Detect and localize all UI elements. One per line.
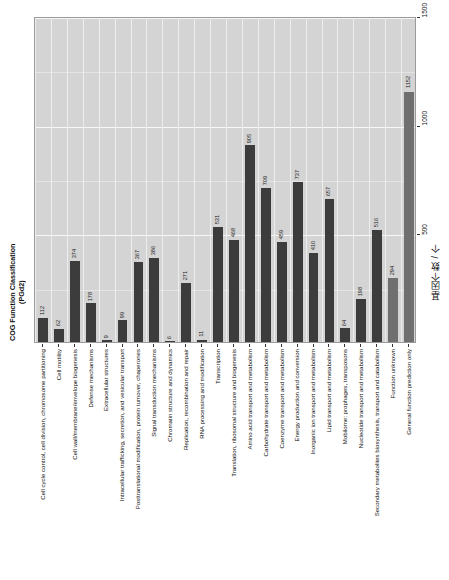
gridline-major — [35, 235, 415, 236]
gridline-minor — [35, 72, 415, 73]
bar-value-label: 737 — [294, 170, 300, 179]
category-label: Cell wall/membrane/envelope biogenesis — [71, 349, 78, 460]
category-label: Amino acid transport and metabolism — [246, 349, 253, 450]
bar[interactable] — [165, 341, 175, 342]
value-axis-title-text: 基因个数 / 个 — [428, 243, 441, 300]
category-tick — [201, 344, 202, 347]
value-tick — [417, 234, 420, 235]
category-tick — [74, 344, 75, 347]
category-label: Translation, ribosomal structure and bio… — [230, 349, 237, 477]
category-tick — [313, 344, 314, 347]
bar[interactable] — [38, 318, 48, 342]
gridline-category — [210, 18, 211, 342]
category-label: Secondary metabolites biosynthesis, tran… — [373, 349, 380, 516]
bar-value-label: 271 — [182, 271, 188, 280]
bar[interactable] — [309, 253, 319, 342]
value-tick — [417, 17, 420, 18]
value-tick-label: 1000 — [421, 111, 428, 125]
gridline-category — [337, 18, 338, 342]
bar-value-label: 64 — [341, 320, 347, 326]
bar-value-label: 178 — [87, 292, 93, 301]
bar-value-label: 1152 — [405, 76, 411, 88]
bar[interactable] — [356, 299, 366, 342]
category-tick — [376, 344, 377, 347]
bar-value-label: 99 — [119, 312, 125, 318]
category-label: Cell cycle control, cell division, chrom… — [39, 349, 46, 500]
bar[interactable] — [293, 182, 303, 342]
bar[interactable] — [197, 340, 207, 342]
bar[interactable] — [325, 199, 335, 342]
bar-value-label: 294 — [389, 266, 395, 275]
bar[interactable] — [102, 340, 112, 342]
category-tick — [344, 344, 345, 347]
gridline-category — [115, 18, 116, 342]
bar-value-label: 459 — [278, 230, 284, 239]
gridline-category — [51, 18, 52, 342]
bar[interactable] — [261, 188, 271, 342]
bar[interactable] — [213, 227, 223, 342]
category-tick — [137, 344, 138, 347]
value-axis-title: 基因个数 / 个 — [424, 243, 444, 333]
gridline-category — [353, 18, 354, 342]
category-tick — [90, 344, 91, 347]
gridline-category — [369, 18, 370, 342]
bar-value-label: 11 — [198, 331, 204, 337]
category-label: Posttranslational modification, protein … — [134, 349, 141, 509]
bar[interactable] — [86, 303, 96, 342]
bar[interactable] — [118, 320, 128, 342]
category-label: Inorganic ion transport and metabolism — [309, 349, 316, 454]
category-tick — [122, 344, 123, 347]
bar[interactable] — [372, 230, 382, 342]
category-label: Carbohydrate transport and metabolism — [262, 349, 269, 456]
category-tick — [281, 344, 282, 347]
bar-value-label: 198 — [357, 287, 363, 296]
bar[interactable] — [229, 240, 239, 342]
bar[interactable] — [181, 283, 191, 342]
gridline-category — [146, 18, 147, 342]
gridline-category — [83, 18, 84, 342]
category-tick — [58, 344, 59, 347]
category-label: Energy production and conversion — [293, 349, 300, 441]
gridline-category — [35, 18, 36, 342]
bar[interactable] — [134, 262, 144, 342]
gridline-category — [290, 18, 291, 342]
gridline-category — [131, 18, 132, 342]
bar[interactable] — [404, 92, 414, 342]
bar[interactable] — [277, 242, 287, 342]
bar[interactable] — [245, 145, 255, 342]
category-tick — [217, 344, 218, 347]
category-label: Chromatin structure and dynamics — [166, 349, 173, 442]
category-tick — [233, 344, 234, 347]
category-label: Coenzyme transport and metabolism — [278, 349, 285, 449]
bar-value-label: 9 — [103, 335, 109, 338]
gridline-category — [274, 18, 275, 342]
gridline-category — [258, 18, 259, 342]
bar-value-label: 62 — [55, 320, 61, 326]
category-tick — [408, 344, 409, 347]
bar-value-label: 112 — [39, 306, 45, 315]
bar[interactable] — [149, 258, 159, 342]
category-tick — [392, 344, 393, 347]
category-label: Lipid transport and metabolism — [325, 349, 332, 432]
gridline-category — [401, 18, 402, 342]
bar[interactable] — [388, 278, 398, 342]
category-label: Replication, recombination and repair — [182, 349, 189, 450]
gridline-category — [178, 18, 179, 342]
bar-value-label: 410 — [310, 241, 316, 250]
category-label: RNA processing and modification — [198, 349, 205, 439]
category-label: Signal transduction mechanisms — [150, 349, 157, 437]
category-tick — [185, 344, 186, 347]
bar-value-label: 905 — [246, 134, 252, 143]
category-label: Extracellular structures — [102, 349, 109, 411]
gridline-category — [99, 18, 100, 342]
bar[interactable] — [70, 261, 80, 342]
category-label: Nucleotide transport and metabolism — [357, 349, 364, 448]
gridline-major — [35, 127, 415, 128]
bar-value-label: 386 — [150, 246, 156, 255]
gridline-category — [322, 18, 323, 342]
category-label: Defense mechanisms — [87, 349, 94, 408]
gridline-category — [162, 18, 163, 342]
bar[interactable] — [54, 329, 64, 342]
bar[interactable] — [340, 328, 350, 342]
value-tick-label: 1500 — [421, 3, 428, 17]
